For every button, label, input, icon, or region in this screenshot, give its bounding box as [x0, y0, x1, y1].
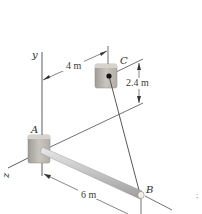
dim-4m-label: 4 m [66, 60, 82, 71]
point-c-label: C [120, 55, 128, 66]
diagram-canvas: y z 4 m 2.4 m 6 m A B C [0, 0, 202, 214]
pin-c [106, 73, 111, 78]
y-axis-label: y [31, 49, 38, 60]
dim-2-4m-label: 2.4 m [126, 77, 149, 88]
z-axis-label: z [0, 172, 11, 179]
dim-6m-label: 6 m [81, 189, 97, 200]
support-c [95, 64, 117, 88]
dim-4m-arrow-right [100, 51, 107, 56]
cable-cb [109, 76, 140, 194]
dim-2-4m-arrow-bottom [137, 96, 141, 103]
point-b-label: B [145, 184, 153, 195]
dim-2-4m-arrow-top [137, 63, 141, 70]
point-b-end [138, 191, 144, 198]
x-axis-extension [145, 196, 172, 210]
dim-6m-arrow-left [44, 174, 51, 179]
point-a-label: A [30, 124, 38, 135]
dim-4m-arrow-left [43, 75, 50, 80]
edge-mark: ; [196, 191, 198, 200]
x-axis [44, 103, 143, 150]
